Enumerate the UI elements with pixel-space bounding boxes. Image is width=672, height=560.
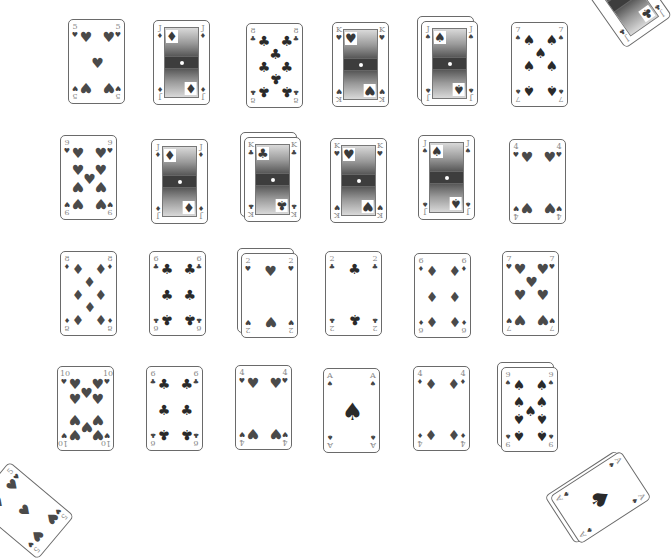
card-rank-label: K (333, 142, 341, 150)
club-pip-icon: ♣ (183, 313, 197, 327)
club-icon: ♣ (149, 431, 157, 439)
playing-card[interactable]: 7♥7♥7♥7♥♥♥♥♥♥♥♥ (502, 251, 559, 336)
card-rank-label: 8 (249, 27, 257, 35)
heart-pip-icon: ♥ (79, 81, 93, 95)
card-rank-label: J (199, 93, 207, 101)
spade-icon: ♠ (424, 33, 432, 41)
card-rank-label: 2 (287, 257, 295, 265)
spade-icon: ♠ (453, 83, 465, 96)
card-rank-label: 9 (504, 371, 512, 379)
playing-card[interactable]: K♥K♥K♥K♥♥♥ (332, 22, 389, 107)
card-rank-label: 9 (63, 208, 71, 216)
spade-pip-icon: ♠ (535, 429, 549, 443)
card-rank-label: J (421, 208, 429, 216)
heart-pip-icon: ♥ (246, 427, 260, 441)
heart-icon: ♥ (512, 204, 520, 212)
card-index: 4♦ (416, 431, 424, 447)
playing-card[interactable]: J♦J♦J♦J♦♦♦ (151, 139, 208, 224)
playing-card[interactable]: 4♦4♦4♦4♦♦♦♦♦ (413, 366, 470, 451)
heart-pip-icon: ♥ (71, 197, 85, 211)
club-pip-icon: ♣ (160, 262, 174, 276)
bottom-left-pile[interactable]: 5♥5♥5♥5♥♥♥♥♥♥ (0, 461, 74, 559)
card-index: 8♣ (249, 27, 257, 43)
playing-card[interactable]: 5♥5♥5♥5♥♥♥♥♥♥ (0, 461, 74, 559)
card-rank-label: 2 (328, 255, 336, 263)
diamond-icon: ♦ (156, 32, 164, 40)
card-index: J♦ (199, 85, 207, 101)
club-icon: ♣ (290, 149, 298, 157)
diamond-pip-icon: ♦ (424, 428, 438, 442)
playing-card[interactable]: 2♣2♣2♣2♣♣♣ (325, 251, 382, 336)
playing-card[interactable]: 9♥9♥9♥9♥♥♥♥♥♥♥♥♥♥ (60, 135, 117, 220)
card-rank-label: J (467, 94, 475, 102)
card-index: 6♣ (149, 431, 157, 447)
club-pip-icon: ♣ (157, 377, 171, 391)
playing-card[interactable]: 8♦8♦8♦8♦♦♦♦♦♦♦♦♦ (60, 251, 117, 336)
heart-icon: ♥ (238, 430, 246, 438)
spade-icon: ♠ (464, 200, 472, 208)
card-index: J♠ (467, 25, 475, 41)
diamond-icon: ♦ (166, 30, 178, 43)
playing-card[interactable]: 8♣8♣8♣8♣♣♣♣♣♣♣♣♣ (246, 23, 303, 108)
spade-pip-icon: ♠ (522, 59, 536, 73)
playing-card[interactable]: A♠A♠A♠A♠♠ (549, 450, 651, 544)
playing-card[interactable]: 9♠9♠9♠9♠♠♠♠♠♠♠♠♠♠ (501, 367, 558, 452)
card-index: 7♠ (514, 87, 522, 103)
club-icon: ♣ (149, 378, 157, 386)
card-rank-label: J (154, 143, 162, 151)
heart-icon: ♥ (60, 431, 68, 439)
card-rank-label: K (335, 26, 343, 34)
playing-card[interactable]: K♣K♣K♣K♣♣♣ (244, 137, 301, 222)
card-rank-label: A (326, 372, 334, 380)
card-rank-label: 2 (328, 324, 336, 332)
card-rank-label: K (335, 95, 343, 103)
playing-card[interactable]: 7♠7♠7♠7♠♠♠♠♠♠♠♠ (511, 22, 568, 107)
diamond-icon: ♦ (417, 265, 425, 273)
artwork-jewel (271, 178, 275, 182)
playing-card[interactable]: 6♦6♦6♦6♦♦♦♦♦♦♦ (414, 253, 471, 338)
playing-card[interactable]: 6♣6♣6♣6♣♣♣♣♣♣♣ (149, 251, 206, 336)
club-pip-icon: ♣ (183, 262, 197, 276)
card-index: 4♥ (512, 204, 520, 220)
card-index: A♠ (554, 488, 572, 503)
heart-pip-icon: ♥ (269, 376, 283, 390)
diamond-pip-icon: ♦ (425, 290, 439, 304)
spade-icon: ♠ (504, 379, 512, 387)
court-figure-artwork: ♣♣ (255, 144, 290, 215)
playing-card[interactable]: J♠J♠J♠J♠♠♠ (418, 135, 475, 220)
playing-card[interactable]: 5♥5♥5♥5♥♥♥♥♥♥ (68, 19, 125, 104)
heart-icon: ♥ (335, 34, 343, 42)
club-pip-icon: ♣ (180, 403, 194, 417)
card-index: J♠ (467, 86, 475, 102)
heart-pip-icon: ♥ (102, 30, 116, 44)
heart-icon: ♥ (287, 318, 295, 326)
playing-card[interactable]: 6♣6♣6♣6♣♣♣♣♣♣♣ (146, 366, 203, 451)
playing-card[interactable]: 2♥2♥2♥2♥♥♥ (241, 253, 298, 338)
club-icon: ♣ (639, 5, 656, 22)
heart-icon: ♥ (63, 147, 71, 155)
club-icon: ♣ (249, 35, 257, 43)
bottom-right-pile[interactable]: A♠A♠A♠A♠♠ (549, 450, 651, 544)
playing-card[interactable]: J♦J♦J♦J♦♦♦ (153, 20, 210, 105)
playing-card[interactable]: 10♥10♥10♥10♥♥♥♥♥♥♥♥♥♥♥ (57, 366, 114, 451)
heart-icon: ♥ (63, 200, 71, 208)
card-index: A♠ (605, 455, 623, 470)
heart-pip-icon: ♥ (513, 288, 527, 302)
playing-card[interactable]: A♠A♠A♠A♠♠ (323, 368, 380, 453)
diamond-icon: ♦ (197, 204, 205, 212)
playing-card[interactable]: 4♥4♥4♥4♥♥♥♥♥ (235, 365, 292, 450)
card-index: K♣ (247, 202, 255, 218)
card-rank-label: J (424, 94, 432, 102)
card-index: A♠ (629, 491, 647, 506)
top-right-pile[interactable]: J♣J♣J♣J♣♣♣ (577, 0, 672, 49)
card-index: 2♣ (328, 255, 336, 271)
playing-card[interactable]: 4♥4♥4♥4♥♥♥♥♥ (509, 139, 566, 224)
card-index: 2♣ (371, 316, 379, 332)
heart-pip-icon: ♥ (520, 150, 534, 164)
playing-card[interactable]: J♣J♣J♣J♣♣♣ (577, 0, 672, 49)
card-rank-label: 2 (371, 324, 379, 332)
playing-card[interactable]: J♠J♠J♠J♠♠♠ (421, 21, 478, 106)
card-rank-label: 8 (63, 324, 71, 332)
playing-card[interactable]: K♥K♥K♥K♥♥♥ (330, 138, 387, 223)
card-index: 10♥ (60, 431, 68, 447)
